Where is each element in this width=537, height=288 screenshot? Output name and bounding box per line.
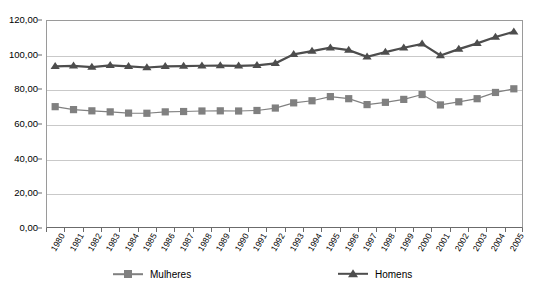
- data-point-square: [327, 93, 334, 100]
- x-tick-label: 1983: [105, 232, 122, 253]
- y-tick-mark: [38, 124, 42, 125]
- data-point-square: [88, 107, 95, 114]
- x-tick-label: 1992: [270, 232, 287, 253]
- y-tick-label: 40,00: [14, 154, 38, 164]
- data-point-square: [419, 91, 426, 98]
- y-tick-label: 80,00: [14, 84, 38, 94]
- y-tick-mark: [38, 89, 42, 90]
- y-tick-mark: [38, 20, 42, 21]
- data-point-square: [253, 107, 260, 114]
- x-tick-label: 1980: [50, 232, 67, 253]
- data-point-square: [474, 95, 481, 102]
- x-tick-label: 2005: [508, 232, 525, 253]
- data-point-triangle: [418, 40, 427, 47]
- x-tick-label: 1999: [398, 232, 415, 253]
- data-point-square: [492, 89, 499, 96]
- x-tick-label: 1995: [325, 232, 342, 253]
- data-point-square: [400, 96, 407, 103]
- data-point-square: [437, 101, 444, 108]
- data-point-square: [70, 106, 77, 113]
- x-tick-label: 2002: [453, 232, 470, 253]
- x-tick-label: 1985: [141, 232, 158, 253]
- data-point-square: [272, 104, 279, 111]
- y-tick-mark: [38, 193, 42, 194]
- data-point-square: [510, 85, 517, 92]
- data-point-square: [198, 107, 205, 114]
- y-tick-mark: [38, 228, 42, 229]
- series-mulheres: [52, 85, 518, 117]
- legend-swatch: [338, 268, 368, 280]
- x-tick-label: 1984: [123, 232, 140, 253]
- x-tick-label: 2000: [417, 232, 434, 253]
- y-axis: 0,0020,0040,0060,0080,00100,00120,00: [0, 20, 42, 228]
- x-tick-label: 1994: [307, 232, 324, 253]
- x-tick-label: 2003: [472, 232, 489, 253]
- y-tick-label: 60,00: [14, 119, 38, 129]
- x-tick-label: 1993: [288, 232, 305, 253]
- data-point-triangle: [509, 27, 518, 34]
- legend-item-homens[interactable]: Homens: [338, 266, 412, 282]
- x-axis: 1980198119821983198419851986198719881989…: [46, 232, 523, 266]
- legend-swatch: [113, 268, 143, 280]
- x-tick-label: 1989: [215, 232, 232, 253]
- y-tick-mark: [38, 158, 42, 159]
- data-point-square: [382, 99, 389, 106]
- data-point-square: [107, 108, 114, 115]
- data-point-square: [143, 110, 150, 117]
- legend-marker-square-icon: [124, 270, 132, 278]
- x-tick-label: 2001: [435, 232, 452, 253]
- data-point-triangle: [326, 43, 335, 50]
- legend-marker-triangle-icon: [348, 269, 358, 277]
- data-point-square: [363, 101, 370, 108]
- x-tick-label: 2004: [490, 232, 507, 253]
- series-line: [55, 32, 514, 68]
- legend-label: Homens: [375, 269, 412, 280]
- data-point-square: [162, 108, 169, 115]
- data-point-square: [345, 95, 352, 102]
- y-tick-label: 20,00: [14, 188, 38, 198]
- x-tick-label: 1991: [252, 232, 269, 253]
- x-tick-label: 1982: [86, 232, 103, 253]
- data-point-square: [52, 103, 59, 110]
- data-point-square: [180, 108, 187, 115]
- data-point-square: [235, 107, 242, 114]
- x-tick-label: 1997: [362, 232, 379, 253]
- x-tick-label: 1990: [233, 232, 250, 253]
- data-point-square: [217, 107, 224, 114]
- x-tick-label: 1987: [178, 232, 195, 253]
- x-tick-label: 1981: [68, 232, 85, 253]
- x-tick-label: 1986: [160, 232, 177, 253]
- data-point-square: [455, 98, 462, 105]
- y-tick-label: 100,00: [9, 50, 38, 60]
- x-tick-label: 1988: [196, 232, 213, 253]
- legend-label: Mulheres: [150, 269, 191, 280]
- series-homens: [51, 27, 519, 70]
- y-tick-label: 120,00: [9, 15, 38, 25]
- data-point-square: [125, 109, 132, 116]
- y-tick-label: 0,00: [20, 223, 39, 233]
- x-tick-label: 1998: [380, 232, 397, 253]
- line-chart: 0,0020,0040,0060,0080,00100,00120,00 198…: [0, 0, 537, 288]
- chart-legend: MulheresHomens: [0, 266, 537, 286]
- x-tick-label: 1996: [343, 232, 360, 253]
- series-line: [55, 89, 514, 113]
- data-point-square: [290, 99, 297, 106]
- legend-item-mulheres[interactable]: Mulheres: [113, 266, 191, 282]
- y-tick-mark: [38, 54, 42, 55]
- data-point-square: [308, 97, 315, 104]
- series-layer: [46, 20, 523, 228]
